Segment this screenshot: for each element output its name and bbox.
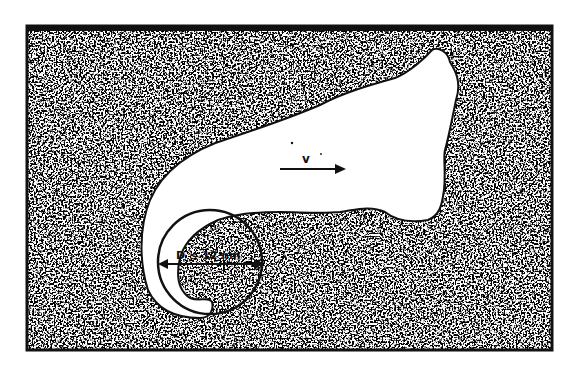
- stray-dot: [291, 142, 293, 144]
- stray-dot: [320, 153, 322, 155]
- figure: D ≲ 12 nm v: [0, 0, 577, 369]
- diagram-canvas: D ≲ 12 nm v: [0, 0, 577, 369]
- diameter-label: D ≲ 12 nm: [176, 249, 240, 262]
- velocity-label: v: [302, 152, 310, 166]
